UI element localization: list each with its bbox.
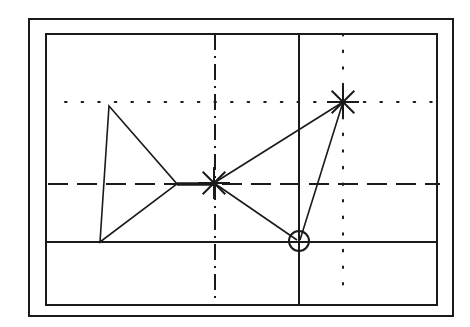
outer-frame xyxy=(29,19,453,316)
drawing-frames xyxy=(29,19,453,316)
connector-line xyxy=(214,183,297,240)
triangle-shape xyxy=(100,106,177,242)
technical-drawing xyxy=(0,0,470,327)
geometry-shapes xyxy=(100,102,343,242)
point-markers xyxy=(198,86,359,251)
star-marker-upper-right-icon xyxy=(327,86,359,118)
connector-line xyxy=(300,102,343,240)
connector-line xyxy=(214,102,343,183)
star-marker-center-icon xyxy=(198,167,230,199)
